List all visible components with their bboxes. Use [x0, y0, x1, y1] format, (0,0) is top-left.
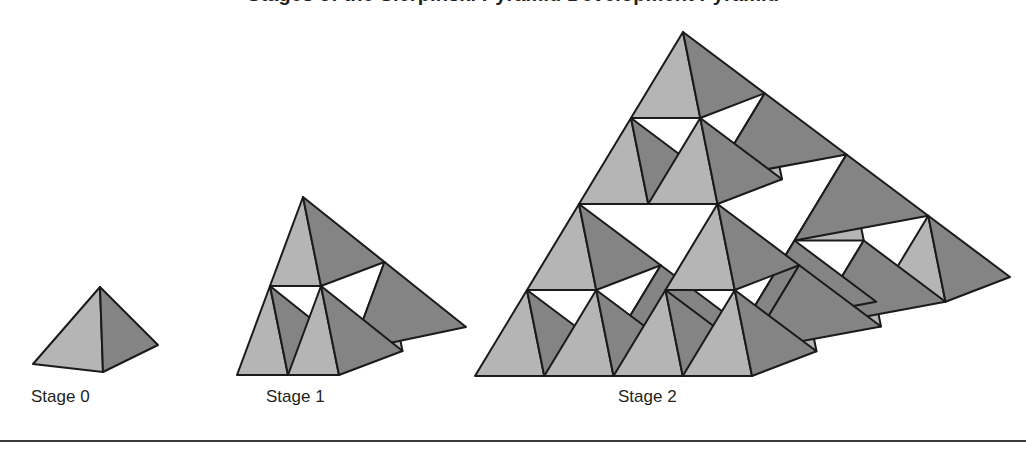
- tetrahedron-unit: [631, 32, 765, 118]
- stage-0-caption: Stage 0: [31, 387, 90, 407]
- tetrahedron-unit: [527, 204, 661, 290]
- stage-2-pyramid: [475, 32, 1010, 376]
- tetra-face-dark: [100, 287, 158, 372]
- stage-2-caption: Stage 2: [618, 387, 677, 407]
- bottom-divider: [0, 440, 1026, 442]
- stage-1-caption: Stage 1: [266, 387, 325, 407]
- tetrahedron-unit: [795, 155, 929, 241]
- stage-0-pyramid: [33, 287, 158, 372]
- figure-page: Stages of the Sierpinski Pyramid Develop…: [0, 0, 1026, 449]
- tetra-face-light: [33, 287, 103, 372]
- tetrahedron-unit: [270, 197, 385, 286]
- stage-1-pyramid: [237, 197, 466, 375]
- sierpinski-pyramid-illustration: [0, 0, 1026, 449]
- tetrahedron-unit: [33, 287, 158, 372]
- tetra-face-dark: [795, 155, 929, 241]
